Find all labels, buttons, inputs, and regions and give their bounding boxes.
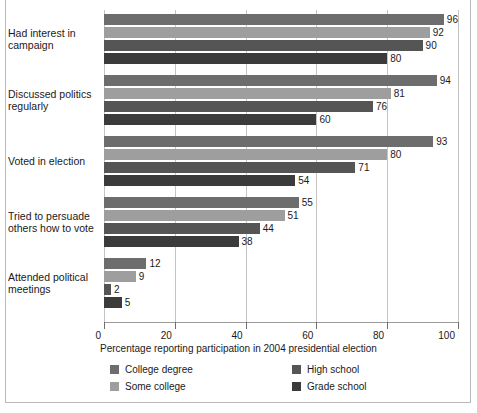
bar-value-label: 51 (285, 210, 299, 221)
x-axis-line (104, 322, 459, 323)
x-tick-60 (316, 322, 317, 329)
x-tick-80 (387, 322, 388, 329)
x-tick-label-20: 20 (161, 330, 175, 342)
bar-value-label: 90 (423, 40, 437, 51)
x-tick-20 (175, 322, 176, 329)
x-tick-label-40: 40 (231, 330, 245, 342)
legend-swatch-icon (110, 365, 119, 374)
bar-value-label: 54 (295, 175, 309, 186)
category-label-line: regularly (8, 100, 100, 113)
bar-value-label: 60 (316, 114, 330, 125)
bar-value-label: 12 (146, 258, 160, 269)
x-tick-0 (104, 322, 105, 329)
x-tick-label-0: 0 (95, 330, 104, 342)
bar-chart-figure: Had interest incampaignDiscussed politic… (0, 0, 477, 413)
category-label-line: Voted in election (8, 155, 100, 168)
gridline-100 (458, 10, 459, 322)
bar (104, 162, 355, 173)
bar (104, 175, 295, 186)
category-label-1: Had interest incampaign (8, 27, 100, 52)
bar-value-label: 93 (433, 136, 447, 147)
bar (104, 223, 260, 234)
category-label-line: Had interest in (8, 27, 100, 40)
bar (104, 297, 122, 308)
x-tick-label-80: 80 (373, 330, 387, 342)
category-label-line: meetings (8, 283, 100, 296)
bar-value-label: 96 (444, 14, 458, 25)
bar (104, 14, 444, 25)
figure-border-bottom (5, 402, 471, 403)
bar (104, 258, 146, 269)
bar-value-label: 38 (239, 236, 253, 247)
legend-item[interactable]: Some college (110, 379, 186, 394)
x-axis-title: Percentage reporting participation in 20… (0, 342, 477, 355)
bar (104, 236, 239, 247)
bar-value-label: 9 (136, 271, 145, 282)
bar (104, 27, 430, 38)
category-label-line: campaign (8, 39, 100, 52)
bar (104, 284, 111, 295)
legend-swatch-icon (110, 382, 119, 391)
x-tick-label-100: 100 (438, 330, 458, 342)
bar-value-label: 44 (260, 223, 274, 234)
legend-item-label: Some college (125, 381, 186, 393)
legend-item[interactable]: High school (292, 362, 359, 377)
bar (104, 136, 433, 147)
legend-item[interactable]: Grade school (292, 379, 366, 394)
category-label-line: Tried to persuade (8, 210, 100, 223)
bar (104, 114, 316, 125)
bar-value-label: 80 (387, 149, 401, 160)
category-label-line: Attended political (8, 271, 100, 284)
legend-swatch-icon (292, 382, 301, 391)
x-tick-label-60: 60 (302, 330, 316, 342)
legend-item-label: Grade school (307, 381, 366, 393)
bar-value-label: 81 (391, 88, 405, 99)
x-tick-40 (246, 322, 247, 329)
bar (104, 40, 423, 51)
bar (104, 271, 136, 282)
bar (104, 75, 437, 86)
plot-area: 020406080100 969290809481766093807154555… (104, 10, 458, 322)
legend-swatch-icon (292, 365, 301, 374)
category-label-2: Discussed politicsregularly (8, 88, 100, 113)
bar-value-label: 92 (430, 27, 444, 38)
bar-value-label: 94 (437, 75, 451, 86)
bar (104, 149, 387, 160)
bar (104, 197, 299, 208)
category-label-3: Voted in election (8, 155, 100, 168)
x-tick-100 (458, 322, 459, 329)
category-label-line: others how to vote (8, 222, 100, 235)
bar-value-label: 71 (355, 162, 369, 173)
category-label-5: Attended politicalmeetings (8, 271, 100, 296)
bar (104, 101, 373, 112)
bar (104, 210, 285, 221)
category-label-line: Discussed politics (8, 88, 100, 101)
legend-item[interactable]: College degree (110, 362, 193, 377)
bar (104, 88, 391, 99)
chart-legend: College degreeSome collegeHigh schoolGra… (110, 362, 430, 396)
bar-value-label: 80 (387, 53, 401, 64)
bar (104, 53, 387, 64)
legend-item-label: College degree (125, 364, 193, 376)
legend-item-label: High school (307, 364, 359, 376)
category-label-4: Tried to persuadeothers how to vote (8, 210, 100, 235)
bar-value-label: 2 (111, 284, 120, 295)
bar-value-label: 76 (373, 101, 387, 112)
bar-value-label: 55 (299, 197, 313, 208)
bar-value-label: 5 (122, 297, 131, 308)
